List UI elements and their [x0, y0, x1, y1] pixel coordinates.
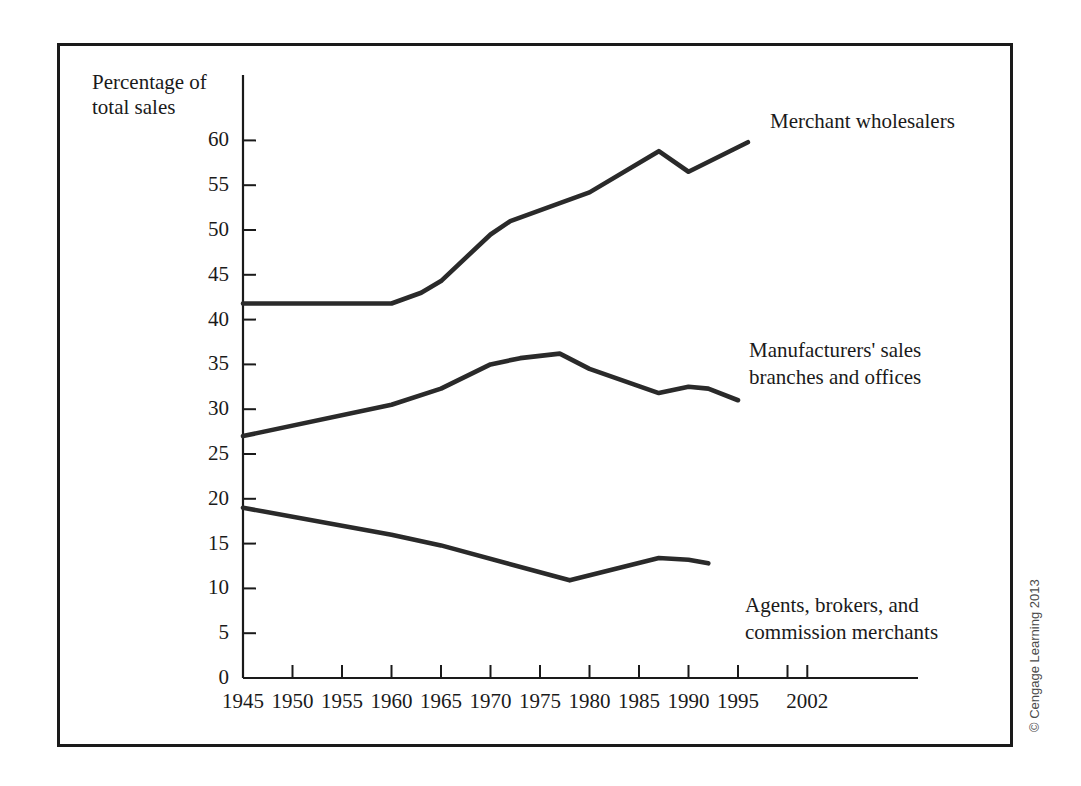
series-label-manufacturers-branches: Manufacturers' salesbranches and offices — [749, 337, 921, 391]
y-axis-tick-label: 20 — [189, 486, 229, 511]
series-label-agents-brokers: Agents, brokers, andcommission merchants — [745, 592, 938, 646]
y-axis-tick-label: 50 — [189, 217, 229, 242]
y-axis-tick-label: 40 — [189, 307, 229, 332]
series-label-merchant-text: Merchant wholesalers — [770, 109, 955, 133]
series-line — [243, 508, 708, 581]
y-axis-tick-label: 35 — [189, 351, 229, 376]
series-label-agents-line1: Agents, brokers, and — [745, 593, 919, 617]
x-axis-tick-label: 2002 — [777, 689, 837, 714]
series-label-agents-line2: commission merchants — [745, 620, 938, 644]
data-series-lines — [243, 142, 748, 580]
figure-container: Percentage oftotal sales Merchant wholes… — [0, 0, 1081, 786]
copyright-notice: © Cengage Learning 2013 — [1027, 710, 1081, 732]
series-label-manufacturers-line2: branches and offices — [749, 365, 921, 389]
x-axis-tick-label: 1995 — [708, 689, 768, 714]
y-axis-tick-label: 5 — [189, 620, 229, 645]
y-axis-tick-label: 30 — [189, 396, 229, 421]
y-axis-tick-label: 55 — [189, 172, 229, 197]
y-axis-ticks — [243, 140, 256, 678]
series-label-manufacturers-line1: Manufacturers' sales — [749, 338, 921, 362]
y-axis-title: Percentage oftotal sales — [92, 70, 207, 120]
series-line — [243, 142, 748, 303]
y-axis-title-line1: Percentage of — [92, 70, 207, 94]
y-axis-tick-label: 10 — [189, 575, 229, 600]
y-axis-tick-label: 0 — [189, 665, 229, 690]
y-axis-tick-label: 60 — [189, 127, 229, 152]
y-axis-tick-label: 25 — [189, 441, 229, 466]
series-label-merchant-wholesalers: Merchant wholesalers — [770, 108, 955, 135]
y-axis-title-line2: total sales — [92, 95, 175, 119]
y-axis-tick-label: 15 — [189, 531, 229, 556]
y-axis-tick-label: 45 — [189, 262, 229, 287]
x-axis-ticks — [243, 665, 807, 678]
series-line — [243, 354, 738, 436]
